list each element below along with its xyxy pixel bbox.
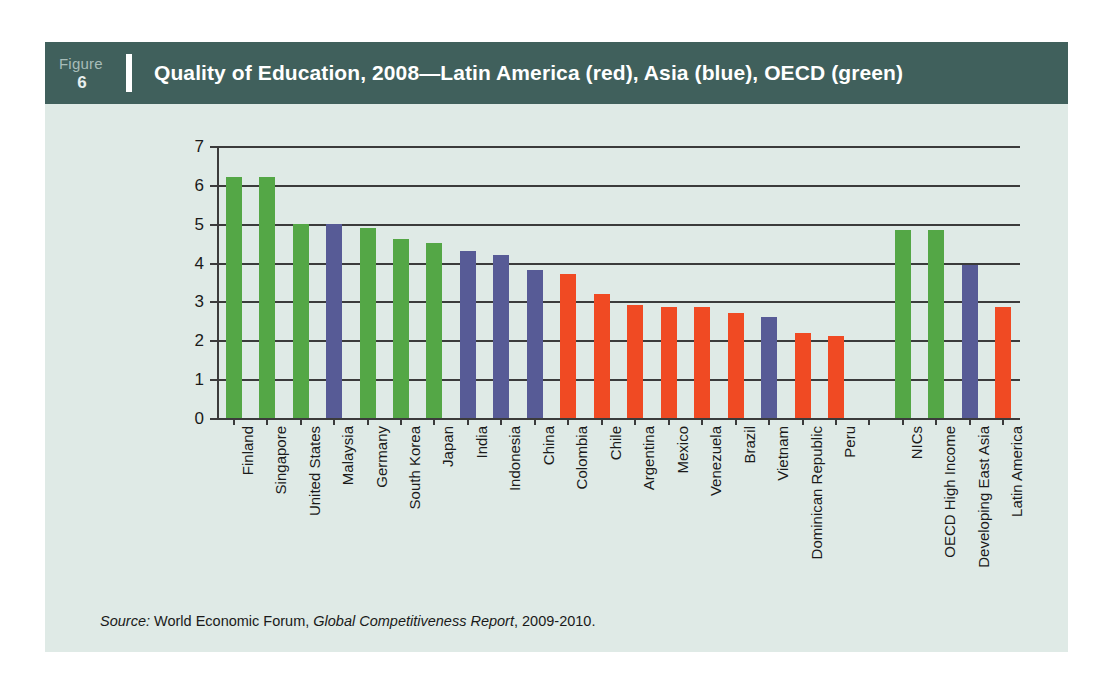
source-note: Source: World Economic Forum, Global Com… (100, 613, 595, 629)
x-axis-tick-label: United States (307, 426, 322, 516)
x-axis-tick-label: Mexico (675, 426, 690, 474)
x-axis-tick-label: Germany (374, 426, 389, 488)
y-axis-tick-mark (210, 301, 218, 303)
y-axis-tick-label: 3 (195, 293, 204, 310)
y-axis-tick-mark (210, 224, 218, 226)
bar (293, 224, 309, 418)
y-axis-tick-label: 5 (195, 215, 204, 232)
source-organization: World Economic Forum, (154, 613, 309, 629)
y-axis-tick-mark (210, 418, 218, 420)
header-divider-rule (126, 54, 132, 92)
x-axis-tick-label: Finland (240, 426, 255, 475)
x-axis-tick-label: Vietnam (775, 426, 790, 481)
bar (795, 333, 811, 418)
bar (694, 307, 710, 418)
bar (728, 313, 744, 418)
x-axis-tick-mark (266, 418, 268, 425)
x-axis-tick-mark (400, 418, 402, 425)
x-axis-tick-mark (902, 418, 904, 425)
x-axis-tick-mark (534, 418, 536, 425)
bar (594, 294, 610, 418)
x-axis-tick-label: Japan (440, 426, 455, 467)
x-axis-tick-mark (768, 418, 770, 425)
bar (259, 177, 275, 418)
figure-title: Quality of Education, 2008—Latin America… (154, 61, 903, 85)
x-axis-tick-mark (701, 418, 703, 425)
x-axis-tick-mark (333, 418, 335, 425)
gridline (217, 146, 1020, 148)
x-axis-tick-label: Peru (842, 426, 857, 458)
x-axis-tick-label: Singapore (273, 426, 288, 494)
x-axis-tick-label: Venezuela (708, 426, 723, 496)
x-axis-tick-mark (467, 418, 469, 425)
figure-word-label: Figure (56, 56, 122, 71)
y-axis-tick-label: 4 (195, 254, 204, 271)
figure-header: Figure 6 Quality of Education, 2008—Lati… (45, 42, 1068, 104)
x-axis-tick-mark (935, 418, 937, 425)
figure-number-block: Figure 6 (56, 56, 122, 91)
figure-number-label: 6 (56, 74, 122, 91)
x-axis-tick-label: China (541, 426, 556, 465)
bar (460, 251, 476, 418)
y-axis-tick-label: 2 (195, 332, 204, 349)
bar (426, 243, 442, 418)
y-axis-tick-mark (210, 379, 218, 381)
x-axis-tick-mark (735, 418, 737, 425)
x-axis-tick-mark (601, 418, 603, 425)
bar (828, 336, 844, 418)
gridline (217, 418, 1020, 420)
bar (928, 230, 944, 418)
x-axis-tick-mark (433, 418, 435, 425)
bar (493, 255, 509, 418)
bar (627, 305, 643, 418)
x-axis-tick-label: Argentina (641, 426, 656, 490)
x-axis-tick-label: Developing East Asia (976, 426, 991, 568)
bar (761, 317, 777, 418)
x-axis-tick-mark (500, 418, 502, 425)
x-axis-tick-label: Colombia (574, 426, 589, 489)
bar (661, 307, 677, 418)
bar (895, 230, 911, 418)
x-axis-tick-label: Brazil (742, 426, 757, 464)
x-axis-tick-label: India (474, 426, 489, 459)
x-axis-tick-label: Indonesia (507, 426, 522, 491)
x-axis-tick-mark (567, 418, 569, 425)
x-axis-tick-label: NICs (909, 426, 924, 459)
plot-box: 01234567 FinlandSingaporeUnited StatesMa… (217, 146, 1020, 418)
bar (326, 224, 342, 418)
gridline (217, 185, 1020, 187)
y-axis-tick-label: 6 (195, 176, 204, 193)
x-axis-tick-mark (634, 418, 636, 425)
y-axis-tick-label: 0 (195, 410, 204, 427)
x-axis-tick-mark (367, 418, 369, 425)
x-axis-tick-mark (969, 418, 971, 425)
x-axis-tick-mark (300, 418, 302, 425)
source-publication: Global Competitiveness Report (313, 613, 514, 629)
bar (962, 265, 978, 418)
x-axis-tick-label: Chile (608, 426, 623, 460)
x-axis-tick-mark (233, 418, 235, 425)
bar (226, 177, 242, 418)
source-label: Source: (100, 613, 150, 629)
y-axis-tick-mark (210, 185, 218, 187)
x-axis-tick-mark (668, 418, 670, 425)
source-years: , 2009-2010. (514, 613, 595, 629)
x-axis-tick-label: Malaysia (340, 426, 355, 485)
x-axis-tick-mark (1002, 418, 1004, 425)
bar (995, 307, 1011, 418)
x-axis-tick-label: Latin America (1009, 426, 1024, 517)
bar (527, 270, 543, 418)
y-axis-tick-mark (210, 263, 218, 265)
bar (560, 274, 576, 418)
x-axis-tick-mark (868, 418, 870, 425)
chart-area: 01234567 FinlandSingaporeUnited StatesMa… (45, 104, 1068, 652)
x-axis-tick-label: Dominican Republic (809, 426, 824, 559)
x-axis-tick-label: OECD High Income (942, 426, 957, 558)
bar (360, 228, 376, 418)
y-axis-tick-label: 1 (195, 371, 204, 388)
x-axis-tick-mark (802, 418, 804, 425)
x-axis-tick-mark (835, 418, 837, 425)
figure-panel: Figure 6 Quality of Education, 2008—Lati… (45, 42, 1068, 652)
bar (393, 239, 409, 418)
y-axis-tick-label: 7 (195, 138, 204, 155)
